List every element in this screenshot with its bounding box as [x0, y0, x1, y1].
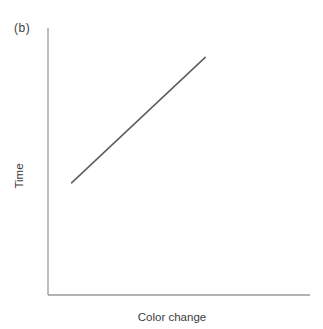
data-line	[72, 57, 206, 182]
y-axis-label: Time	[13, 163, 25, 188]
chart-canvas	[0, 0, 323, 329]
chart-figure: (b) Time Color change	[0, 0, 323, 329]
x-axis-label: Color change	[138, 311, 206, 323]
